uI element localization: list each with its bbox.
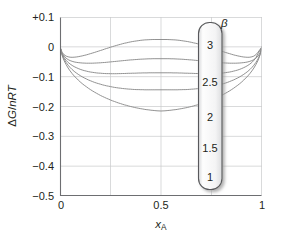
ytick-label-3: −0.2 bbox=[22, 101, 54, 112]
ytick-label-2: −0.1 bbox=[22, 71, 54, 82]
legend-entry-3[interactable]: 3 bbox=[207, 40, 213, 51]
y-axis-label-g: G bbox=[6, 110, 18, 119]
y-axis-label-nrt: nRT bbox=[6, 85, 18, 107]
legend-title-beta: β bbox=[221, 18, 228, 30]
xtick-label-0: 0 bbox=[58, 200, 64, 211]
x-axis-label-subscript: A bbox=[161, 223, 167, 232]
xtick-label-2: 1 bbox=[259, 200, 265, 211]
xtick-label-1: 0.5 bbox=[153, 200, 168, 211]
x-axis-label: xA bbox=[155, 219, 166, 232]
ytick-label-6: −0.5 bbox=[22, 191, 54, 202]
y-axis-label-slash: / bbox=[6, 107, 18, 110]
legend-entry-1[interactable]: 1 bbox=[207, 172, 213, 183]
y-axis-label-delta: Δ bbox=[6, 119, 18, 127]
ytick-label-1: 0 bbox=[22, 41, 54, 52]
legend-entry-2.5[interactable]: 2.5 bbox=[202, 77, 217, 88]
ytick-label-0: +0.1 bbox=[22, 12, 54, 23]
ytick-label-4: −0.3 bbox=[22, 131, 54, 142]
legend-entry-2[interactable]: 2 bbox=[207, 112, 213, 123]
ytick-label-5: −0.4 bbox=[22, 161, 54, 172]
legend-entry-1.5[interactable]: 1.5 bbox=[202, 143, 217, 154]
chart-figure: +0.1 0 −0.1 −0.2 −0.3 −0.4 −0.5 0 0.5 1 … bbox=[0, 0, 288, 241]
plot-canvas bbox=[0, 0, 288, 241]
y-axis-label: ΔG/nRT bbox=[7, 85, 19, 126]
